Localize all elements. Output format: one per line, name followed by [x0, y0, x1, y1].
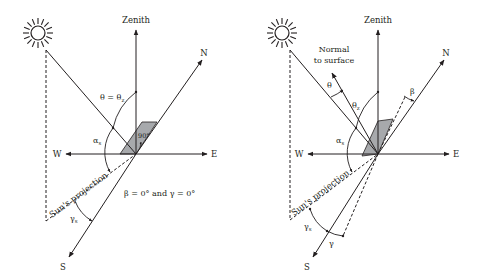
south-axis	[69, 154, 136, 257]
left-diagram: Zenith N S E W 90° Sun's projection θ = …	[23, 15, 217, 272]
beta-label: β	[410, 87, 415, 96]
caption: β = 0° and γ = 0°	[124, 189, 195, 198]
sun-ray	[290, 50, 378, 154]
theta-label: θ	[327, 81, 332, 90]
north-axis	[378, 60, 444, 154]
zenith-label: Zenith	[122, 15, 151, 25]
alpha-label: αs	[93, 136, 101, 146]
theta-z-label: θz	[352, 101, 360, 111]
gamma-s-arc	[310, 209, 327, 231]
solar-angles-diagram: Zenith N S E W 90° Sun's projection θ = …	[0, 0, 479, 278]
north-label: N	[442, 48, 450, 58]
alpha-arc	[105, 128, 113, 172]
alpha-label: αs	[336, 136, 344, 146]
east-label: E	[211, 149, 217, 159]
sun-icon	[267, 18, 297, 48]
theta-eq-label: θ = θz	[100, 93, 124, 103]
sun-icon	[23, 18, 53, 48]
theta-arc	[331, 90, 343, 97]
south-label: S	[304, 262, 310, 272]
beta-arc	[404, 96, 414, 101]
zenith-label: Zenith	[364, 15, 393, 25]
gamma-label: γ	[329, 239, 334, 248]
west-label: W	[53, 149, 62, 159]
south-label: S	[60, 262, 66, 272]
normal-projection-dashed	[343, 154, 378, 236]
normal-label-line1: Normal	[319, 45, 350, 54]
west-label: W	[295, 149, 304, 159]
right-angle-label: 90°	[138, 132, 150, 140]
north-label: N	[200, 48, 208, 58]
east-label: E	[453, 149, 459, 159]
sun-projection-label: Sun's projection	[47, 170, 110, 220]
alpha-arc	[347, 128, 356, 172]
normal-label-line2: to surface	[314, 56, 355, 65]
right-diagram: Zenith N S E W Normal to surface β Sun's…	[267, 15, 459, 272]
gamma-s-label: γs	[70, 214, 78, 224]
gamma-s-label: γs	[304, 222, 312, 232]
